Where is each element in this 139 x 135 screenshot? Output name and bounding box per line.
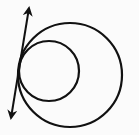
tangent-circles-diagram bbox=[0, 0, 139, 135]
small-circle bbox=[19, 41, 79, 101]
large-circle bbox=[18, 23, 122, 127]
